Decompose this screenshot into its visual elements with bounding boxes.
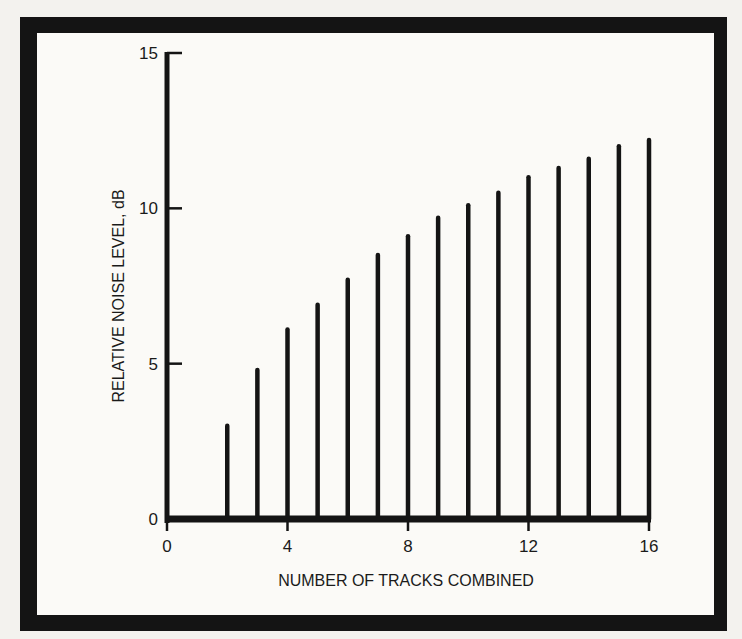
x-axis-title: NUMBER OF TRACKS COMBINED — [278, 572, 534, 589]
bars-group — [227, 140, 649, 519]
y-tick-label-15: 15 — [139, 44, 158, 63]
y-tick-label-0: 0 — [149, 510, 158, 529]
y-tick-label-10: 10 — [139, 199, 158, 218]
x-tick-label-8: 8 — [403, 537, 412, 556]
bar-chart: 0510150481216 NUMBER OF TRACKS COMBINED … — [0, 0, 742, 639]
ticks-group: 0510150481216 — [139, 44, 658, 556]
y-tick-label-5: 5 — [149, 355, 158, 374]
x-tick-label-12: 12 — [519, 537, 538, 556]
x-tick-label-0: 0 — [162, 537, 171, 556]
x-tick-label-16: 16 — [640, 537, 659, 556]
x-tick-label-4: 4 — [283, 537, 292, 556]
y-axis-title: RELATIVE NOISE LEVEL, dB — [110, 189, 127, 402]
